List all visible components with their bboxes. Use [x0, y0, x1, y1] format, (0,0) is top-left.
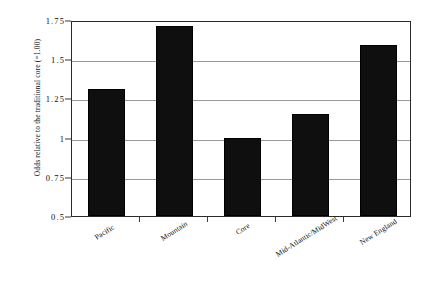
x-axis-tick-label: Pacific [93, 222, 116, 241]
y-axis-tick-label: 1.5 [5, 55, 65, 65]
x-axis-tick-mark [343, 217, 344, 222]
x-axis-tick-mark [207, 217, 208, 222]
x-axis-tick-label: Mountain [159, 219, 189, 243]
bar [88, 89, 125, 216]
bar-chart-figure: Odds relative to the traditional core (=… [0, 0, 433, 293]
x-axis-tick-label: Mid-Atlantic/MidWest [274, 214, 339, 259]
bar [156, 26, 193, 216]
x-axis-tick-mark [275, 217, 276, 222]
x-axis-tick-mark [139, 217, 140, 222]
bar [360, 45, 397, 216]
bar [224, 138, 261, 216]
y-axis-tick-label: 1.25 [5, 94, 65, 104]
plot-area [71, 21, 411, 217]
y-axis-tick-label: 1.75 [5, 16, 65, 26]
x-axis-tick-label: Core [234, 221, 251, 237]
y-axis-tick-label: 0.75 [5, 173, 65, 183]
y-axis-tick-label: 0.5 [5, 212, 65, 222]
y-axis-tick-label: 1 [5, 134, 65, 144]
x-axis-tick-label: New England [358, 217, 399, 247]
bar [292, 114, 329, 216]
